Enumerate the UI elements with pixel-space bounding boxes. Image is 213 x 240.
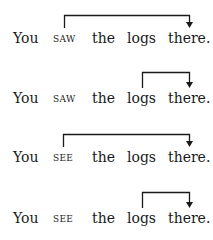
word-you: You [13, 150, 38, 164]
word-the: the [92, 150, 115, 164]
dependency-arrow [65, 16, 194, 29]
word-there: there. [168, 150, 210, 164]
word-there: there. [168, 31, 210, 45]
word-there: there. [168, 91, 210, 105]
word-logs: logs [127, 31, 156, 45]
word-logs: logs [127, 211, 156, 225]
arrowhead-icon [186, 82, 193, 88]
arrow-line [143, 73, 190, 89]
word-there: there. [168, 211, 210, 225]
word-the: the [92, 211, 115, 225]
word-you: You [13, 211, 38, 225]
arrow-line [64, 135, 190, 148]
word-saw: saw [53, 31, 75, 44]
dependency-arrow [143, 193, 194, 209]
arrow-line [65, 16, 190, 29]
word-you: You [13, 91, 38, 105]
arrowhead-icon [186, 202, 193, 208]
word-saw: saw [53, 91, 75, 104]
word-see: see [53, 211, 73, 224]
arrowhead-icon [186, 22, 193, 28]
word-you: You [13, 31, 38, 45]
word-the: the [92, 91, 115, 105]
arrowhead-icon [186, 141, 193, 147]
dependency-diagram: Yousawthelogsthere.Yousawthelogsthere.Yo… [0, 0, 213, 240]
dependency-arrow [64, 135, 194, 148]
word-the: the [92, 31, 115, 45]
arrow-line [143, 193, 190, 209]
word-logs: logs [127, 91, 156, 105]
word-see: see [53, 150, 73, 163]
dependency-arrow [143, 73, 194, 89]
word-logs: logs [127, 150, 156, 164]
